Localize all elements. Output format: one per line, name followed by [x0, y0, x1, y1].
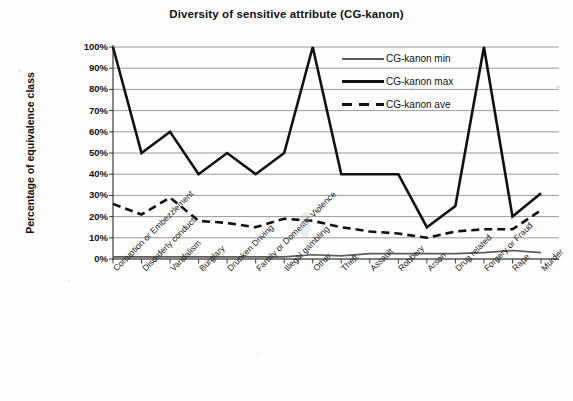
chart-container: Diversity of sensitive attribute (CG-kan… — [0, 0, 573, 401]
x-axis-tick-label: Assault — [368, 246, 395, 273]
x-axis-tick-label: Other — [311, 251, 333, 273]
chart-legend: CG-kanon min CG-kanon max CG-kanon ave — [340, 49, 520, 118]
scan-speck — [18, 70, 21, 72]
legend-line-min-icon — [340, 53, 386, 65]
legend-label-min: CG-kanon min — [386, 53, 450, 64]
scan-speck — [300, 212, 310, 238]
x-axis-tick-label: Rape — [510, 251, 532, 273]
x-axis-tick-label: Burglary — [197, 243, 227, 273]
legend-line-max-icon — [340, 76, 386, 88]
x-axis-tick-label: Murder — [539, 247, 565, 273]
scan-speck — [556, 86, 560, 88]
legend-item-cg-kanon-ave[interactable]: CG-kanon ave — [340, 95, 520, 114]
legend-item-cg-kanon-max[interactable]: CG-kanon max — [340, 72, 520, 91]
x-axis-tick-label: Robbery — [396, 243, 426, 273]
legend-label-max: CG-kanon max — [386, 76, 453, 87]
legend-item-cg-kanon-min[interactable]: CG-kanon min — [340, 49, 520, 68]
x-axis-tick-label: Forgery or Fraud — [482, 220, 535, 273]
x-axis-tick-label: Arson — [425, 250, 448, 273]
x-axis-tick-label: Theft — [339, 252, 360, 273]
legend-label-ave: CG-kanon ave — [386, 99, 450, 110]
legend-line-ave-icon — [340, 99, 386, 111]
